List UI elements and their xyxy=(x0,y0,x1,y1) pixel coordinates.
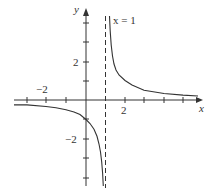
y-tick-label-2: 2 xyxy=(73,56,79,68)
curve-right-branch xyxy=(110,16,199,96)
y-axis-label: y xyxy=(73,3,79,15)
x-axis-label: x xyxy=(198,102,204,114)
x-tick-label-2: 2 xyxy=(121,104,127,116)
function-graph: y x x = 1 −2 2 2 −2 xyxy=(0,0,205,188)
asymptote-label: x = 1 xyxy=(113,14,136,26)
y-axis xyxy=(83,8,89,186)
curve-left-branch xyxy=(14,105,103,186)
y-tick-label-neg2: −2 xyxy=(65,133,77,145)
x-tick-label-neg2: −2 xyxy=(36,83,48,95)
y-axis-arrow-icon xyxy=(83,8,89,16)
x-axis xyxy=(14,97,203,103)
